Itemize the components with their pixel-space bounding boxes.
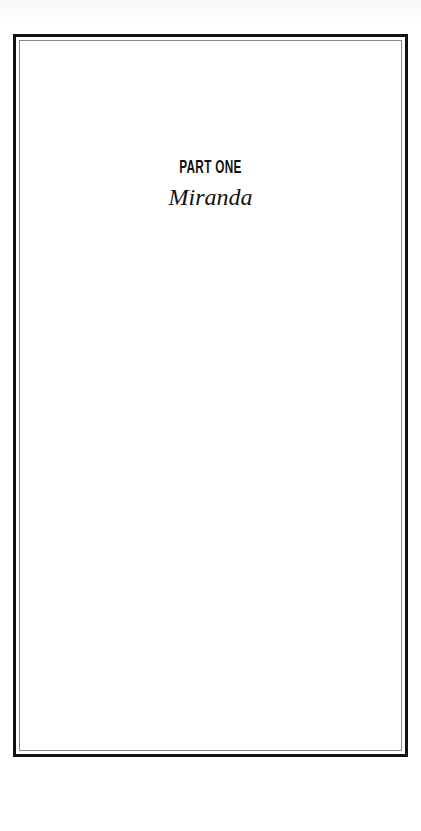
page-border-inner [19, 40, 402, 751]
part-title: Miranda [0, 184, 421, 211]
page-bleed-through [0, 0, 421, 20]
part-label: PART ONE [80, 156, 341, 178]
page-border-outer [13, 34, 408, 757]
